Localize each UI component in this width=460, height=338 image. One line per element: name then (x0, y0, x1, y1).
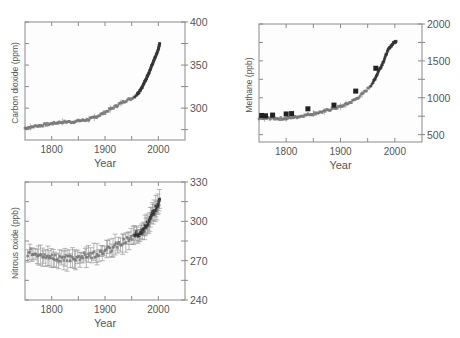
ice-core-marker (289, 111, 294, 116)
y-tick-label: 300 (190, 215, 208, 227)
y-tick-label: 1500 (427, 55, 451, 67)
plot-frame (259, 24, 422, 142)
data-point (90, 257, 93, 260)
y-tick-label: 350 (190, 59, 208, 71)
ice-core-marker (305, 106, 310, 111)
chart-panel-n2o: 180019002000Year240270300330Nitrous oxid… (10, 176, 208, 329)
x-tick-label: 1800 (41, 144, 64, 155)
x-axis-label: Year (94, 317, 117, 329)
ice-core-marker (284, 111, 289, 116)
data-point (107, 110, 110, 113)
x-tick-label: 2000 (147, 144, 170, 155)
x-tick-label: 2000 (147, 304, 170, 315)
data-point (42, 125, 45, 128)
data-point (158, 198, 161, 201)
data-point (26, 255, 29, 258)
ice-core-marker (263, 113, 268, 118)
data-point (82, 257, 85, 260)
x-axis-label: Year (94, 157, 117, 169)
y-tick-label: 240 (190, 294, 208, 306)
x-tick-label: 2000 (384, 146, 407, 157)
y-tick-label: 1000 (427, 92, 451, 104)
data-point (365, 90, 368, 93)
chart-figure: 180019002000Year300350400Carbon dioxide … (0, 0, 460, 338)
y-tick-label: 330 (190, 176, 208, 188)
chart-panel-co2: 180019002000Year300350400Carbon dioxide … (10, 16, 208, 169)
data-point (135, 230, 138, 233)
plot-frame (25, 22, 185, 140)
x-tick-label: 1900 (94, 304, 117, 315)
data-point (109, 247, 112, 250)
data-point (125, 241, 128, 244)
data-point (74, 259, 77, 262)
data-point (350, 101, 353, 104)
y-tick-label: 400 (190, 16, 208, 28)
ice-core-marker (270, 113, 275, 118)
y-tick-label: 270 (190, 255, 208, 267)
charts-canvas: 180019002000Year300350400Carbon dioxide … (0, 0, 460, 338)
ice-core-marker (331, 103, 336, 108)
x-axis-label: Year (329, 159, 352, 171)
chart-panel-ch4: 180019002000Year500100015002000Methane (… (244, 18, 451, 171)
y-axis-label: Nitrous oxide (ppb) (10, 207, 20, 279)
x-tick-label: 1900 (329, 146, 352, 157)
y-tick-label: 2000 (427, 18, 451, 30)
y-axis-label: Methane (ppb) (244, 57, 254, 112)
ice-core-marker (353, 89, 358, 94)
data-point (29, 251, 32, 254)
x-tick-label: 1900 (94, 144, 117, 155)
x-tick-label: 1800 (41, 304, 64, 315)
y-tick-label: 500 (427, 129, 445, 141)
y-tick-label: 300 (190, 102, 208, 114)
data-point (69, 259, 72, 262)
x-tick-label: 1800 (275, 146, 298, 157)
data-point (122, 238, 125, 241)
y-axis-label: Carbon dioxide (ppm) (10, 42, 20, 124)
ice-core-marker (373, 66, 378, 71)
